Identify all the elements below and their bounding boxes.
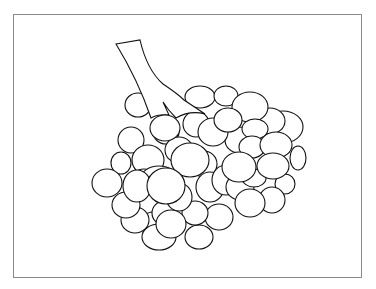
grape-cluster-illustration — [0, 0, 376, 289]
